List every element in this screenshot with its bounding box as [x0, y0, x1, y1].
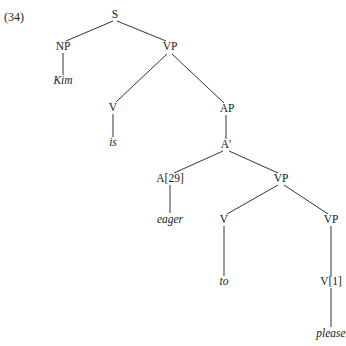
word-to: to	[220, 276, 229, 288]
node-v-2: V	[220, 214, 228, 226]
word-please: please	[316, 328, 345, 340]
node-a-bar: A'	[221, 139, 231, 151]
node-vp: VP	[163, 41, 178, 53]
edge-s-np	[66, 21, 113, 41]
edge-s-vp	[117, 21, 166, 41]
node-v1: V[1]	[320, 276, 342, 288]
word-kim: Kim	[53, 75, 72, 87]
node-v: V	[109, 102, 117, 114]
word-is: is	[109, 137, 117, 149]
node-vp-2: VP	[274, 173, 289, 185]
node-a29: A[29]	[156, 173, 183, 185]
edge-vp-v2	[227, 185, 278, 214]
edge-abar-vp	[229, 151, 278, 173]
node-np: NP	[56, 41, 71, 53]
node-s: S	[112, 9, 118, 21]
word-eager: eager	[157, 214, 183, 226]
edge-vp-v	[116, 54, 167, 102]
node-vp-3: VP	[324, 214, 339, 226]
edge-abar-a29	[174, 151, 223, 173]
edge-vp-vp3	[284, 185, 328, 214]
node-ap: AP	[220, 103, 235, 115]
edge-vp-ap	[172, 54, 224, 103]
